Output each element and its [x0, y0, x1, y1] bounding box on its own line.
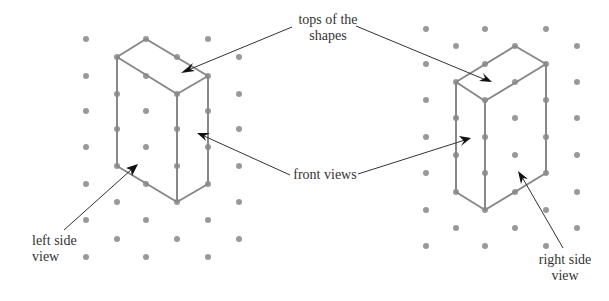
grid-dot — [83, 144, 89, 150]
right-dot-grid — [423, 26, 580, 249]
grid-dot — [205, 217, 211, 223]
grid-dot — [543, 243, 549, 249]
grid-dot — [83, 217, 89, 223]
leader-front-left — [197, 133, 290, 175]
grid-dot — [83, 73, 89, 79]
left-cuboid-bottom — [117, 166, 208, 202]
leader-right-side — [518, 171, 563, 248]
grid-dot — [423, 243, 429, 249]
label-right-side-line1: right side — [530, 252, 600, 268]
grid-dot — [453, 43, 459, 49]
grid-dot — [143, 254, 149, 260]
grid-dot — [205, 36, 211, 42]
grid-dot — [83, 254, 89, 260]
grid-dot — [114, 236, 120, 242]
grid-dot — [236, 199, 242, 205]
label-right-side-line2: view — [530, 268, 600, 284]
grid-dot — [236, 91, 242, 97]
grid-dot — [143, 144, 149, 150]
grid-dot — [574, 189, 580, 195]
label-tops-line2: shapes — [288, 28, 368, 44]
grid-dot — [423, 26, 429, 32]
grid-dot — [83, 181, 89, 187]
left-dot-grid — [83, 36, 242, 260]
grid-dot — [574, 43, 580, 49]
grid-dot — [83, 36, 89, 42]
grid-dot — [512, 225, 518, 231]
grid-dot — [574, 115, 580, 121]
grid-dot — [453, 225, 459, 231]
leader-top-right — [356, 26, 492, 82]
grid-dot — [423, 170, 429, 176]
grid-dot — [543, 207, 549, 213]
grid-dot — [83, 108, 89, 114]
grid-dot — [512, 152, 518, 158]
label-tops-of-shapes: tops of the shapes — [288, 12, 368, 44]
grid-dot — [574, 225, 580, 231]
grid-dot — [143, 217, 149, 223]
isometric-dot-diagram — [0, 0, 609, 301]
left-cuboid — [117, 39, 208, 202]
label-left-side-line1: left side — [32, 233, 77, 249]
label-right-side-view: right side view — [530, 252, 600, 284]
grid-dot — [423, 207, 429, 213]
grid-dot — [543, 26, 549, 32]
arrowhead-icon — [126, 164, 138, 176]
grid-dot — [174, 236, 180, 242]
grid-dot — [423, 134, 429, 140]
grid-dot — [423, 97, 429, 103]
grid-dot — [236, 163, 242, 169]
label-left-side-view: left side view — [32, 233, 77, 265]
grid-dot — [482, 26, 488, 32]
grid-dot — [143, 108, 149, 114]
leader-top-left — [181, 27, 292, 73]
label-front-line1: front views — [290, 167, 360, 183]
right-cuboid — [456, 46, 546, 210]
label-tops-line1: tops of the — [288, 12, 368, 28]
grid-dot — [512, 115, 518, 121]
grid-dot — [236, 126, 242, 132]
grid-dot — [482, 243, 488, 249]
grid-dot — [114, 199, 120, 205]
grid-dot — [236, 236, 242, 242]
right-cuboid-bottom — [456, 173, 546, 210]
left-cuboid-top-face — [117, 39, 208, 94]
label-left-side-line2: view — [32, 249, 77, 265]
grid-dot — [574, 152, 580, 158]
grid-dot — [236, 54, 242, 60]
grid-dot — [574, 79, 580, 85]
grid-dot — [423, 61, 429, 67]
arrowhead-icon — [518, 171, 528, 184]
label-front-views: front views — [290, 167, 360, 183]
leader-left-side — [64, 164, 138, 230]
grid-dot — [205, 254, 211, 260]
